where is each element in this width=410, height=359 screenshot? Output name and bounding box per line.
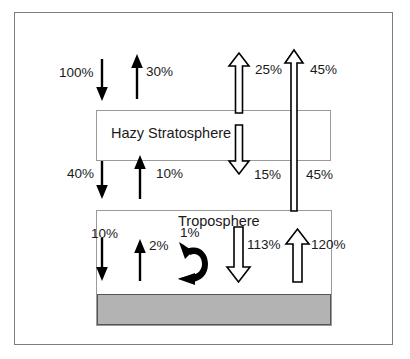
label-surface-reflected: 2% xyxy=(149,238,169,253)
stratosphere-emission-down-arrow-icon xyxy=(229,125,249,174)
label-reflected-solar: 30% xyxy=(146,64,173,79)
diagram-frame: Hazy Stratosphere Troposphere xyxy=(14,12,393,345)
label-stratosphere-emission-up: 25% xyxy=(255,62,282,77)
label-back-radiation: 113% xyxy=(247,237,281,252)
label-incoming-solar: 100% xyxy=(59,65,94,80)
surface-emission-arrow-icon xyxy=(286,229,309,282)
surface-window-arrow-icon xyxy=(285,50,303,211)
label-stratosphere-emission-down: 15% xyxy=(254,167,281,182)
label-window-mid: 45% xyxy=(306,167,333,182)
label-troposphere-reflected: 10% xyxy=(156,166,183,181)
back-radiation-arrow-icon xyxy=(227,227,250,282)
label-surface-emission: 120% xyxy=(311,237,346,252)
surface-reflected-arrow-icon xyxy=(134,239,146,281)
latent-heat-curved-arrow-icon xyxy=(178,242,208,285)
label-solar-to-surface: 10% xyxy=(91,226,118,241)
solar-to-troposphere-arrow-icon xyxy=(96,161,108,199)
incoming-solar-arrow-icon xyxy=(96,59,108,101)
reflected-solar-arrow-icon xyxy=(131,54,143,99)
label-solar-to-troposphere: 40% xyxy=(67,166,94,181)
solar-to-surface-arrow-icon xyxy=(96,238,108,281)
stratosphere-emission-up-arrow-icon xyxy=(229,53,249,113)
diagram-root: Hazy Stratosphere Troposphere xyxy=(0,0,410,359)
label-latent-heat: 1% xyxy=(180,225,200,240)
label-window-top: 45% xyxy=(310,62,337,77)
troposphere-reflected-arrow-icon xyxy=(134,155,146,199)
